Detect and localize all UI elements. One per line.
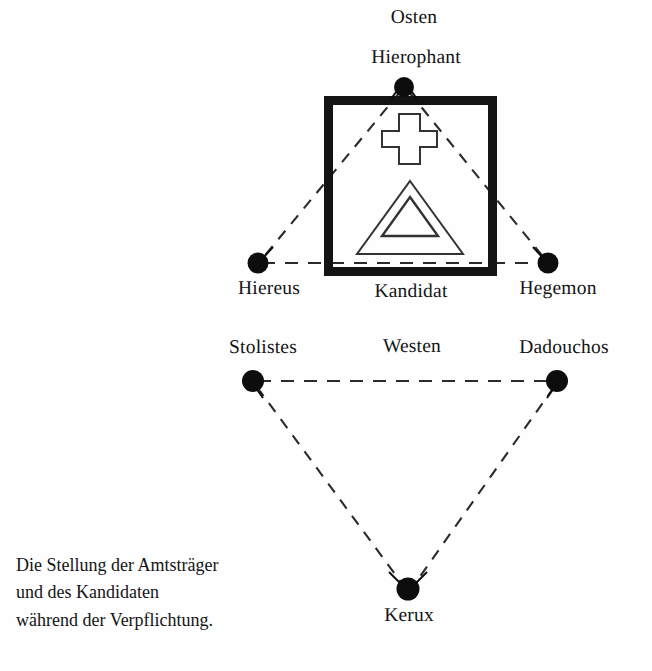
label-hiereus: Hiereus [238, 279, 300, 299]
label-westen: Westen [383, 337, 441, 357]
kandidat-box [329, 101, 493, 272]
whisker-kerux-left [389, 572, 400, 583]
node-dot-kerux[interactable] [397, 578, 420, 601]
upper-triangle-edges [262, 92, 545, 263]
caption-line-2: und des Kandidaten [16, 579, 316, 606]
label-hegemon: Hegemon [519, 279, 596, 299]
node-dot-stolistes[interactable] [242, 370, 264, 392]
whisker-hegemon [533, 247, 543, 258]
inner-triangle-icon [382, 197, 438, 236]
edge-hierophant-hegemon [409, 92, 545, 259]
label-dadouchos: Dadouchos [519, 338, 609, 358]
caption-line-1: Die Stellung der Amtsträger [16, 552, 316, 579]
node-dot-hierophant[interactable] [394, 77, 414, 97]
caption-line-3: während der Verpflichtung. [16, 607, 316, 634]
label-kandidat: Kandidat [374, 282, 447, 302]
greek-cross-icon [382, 114, 437, 164]
node-dot-dadouchos[interactable] [546, 370, 568, 392]
label-stolistes: Stolistes [229, 338, 297, 358]
edge-dadouchos-kerux [414, 387, 554, 585]
whisker-hiereus [263, 247, 273, 258]
label-osten: Osten [391, 8, 438, 28]
figure-caption: Die Stellung der Amtsträger und des Kand… [16, 552, 316, 634]
outer-triangle-icon [357, 181, 463, 254]
label-hierophant: Hierophant [371, 48, 461, 68]
figure-diagram: Osten Hierophant Hiereus Kandidat Hegemo… [0, 0, 652, 671]
label-kerux: Kerux [384, 606, 434, 626]
